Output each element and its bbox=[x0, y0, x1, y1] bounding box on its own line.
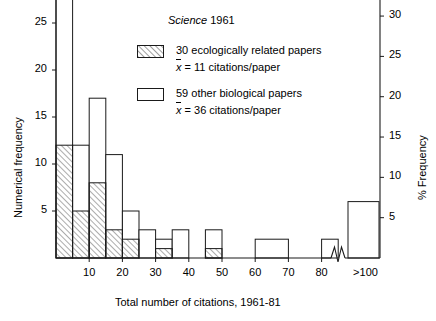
axis-tick-label: 5 bbox=[389, 210, 395, 222]
axis-tick-label: 20 bbox=[116, 266, 128, 278]
axis-tick-label: >100 bbox=[353, 266, 378, 278]
axis-tick-label: 20 bbox=[389, 89, 401, 101]
axis-tick-label: 25 bbox=[35, 15, 47, 27]
axis-tick-label: 50 bbox=[216, 266, 228, 278]
axis-tick-label: 30 bbox=[149, 266, 161, 278]
axis-tick-label: 25 bbox=[389, 48, 401, 60]
tick-label-layer: 5101520253051015202530351020304050607080… bbox=[0, 0, 436, 321]
axis-tick-label: 60 bbox=[249, 266, 261, 278]
axis-tick-label: 80 bbox=[315, 266, 327, 278]
chart-figure: Numerical frequency % Frequency Total nu… bbox=[0, 0, 436, 321]
axis-tick-label: 15 bbox=[389, 129, 401, 141]
axis-tick-label: 70 bbox=[282, 266, 294, 278]
axis-tick-label: 5 bbox=[41, 203, 47, 215]
axis-tick-label: 10 bbox=[389, 169, 401, 181]
axis-tick-label: 15 bbox=[35, 109, 47, 121]
axis-tick-label: 30 bbox=[389, 8, 401, 20]
axis-tick-label: 10 bbox=[35, 156, 47, 168]
axis-tick-label: 40 bbox=[183, 266, 195, 278]
axis-tick-label: 10 bbox=[83, 266, 95, 278]
axis-tick-label: 20 bbox=[35, 62, 47, 74]
